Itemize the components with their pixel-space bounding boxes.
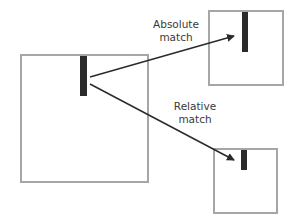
relative-label-line1: Relative xyxy=(167,100,223,113)
relative-match-label: Relative match xyxy=(167,100,223,126)
relative-label-line2: match xyxy=(167,113,223,126)
absolute-match-label: Absolute match xyxy=(148,18,204,44)
absolute-label-line1: Absolute xyxy=(148,18,204,31)
absolute-label-line2: match xyxy=(148,31,204,44)
